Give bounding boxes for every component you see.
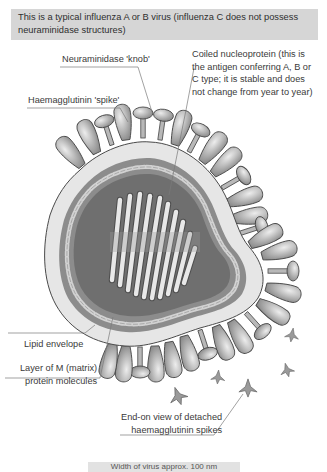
label-detached-spikes: End-on view of detached haemagglutinin s… xyxy=(121,411,222,436)
label-neuraminidase-knob: Neuraminidase 'knob' xyxy=(62,53,150,66)
label-coiled-nucleoprotein: Coiled nucleoprotein (this is the antige… xyxy=(192,48,313,98)
label-haemagglutinin-spike: Haemagglutinin 'spike' xyxy=(28,94,119,107)
label-matrix-protein: Layer of M (matrix) protein molecules xyxy=(20,362,97,387)
scale-caption: Width of virus approx. 100 nm xyxy=(88,462,240,472)
label-lipid-envelope: Lipid envelope xyxy=(24,338,83,351)
